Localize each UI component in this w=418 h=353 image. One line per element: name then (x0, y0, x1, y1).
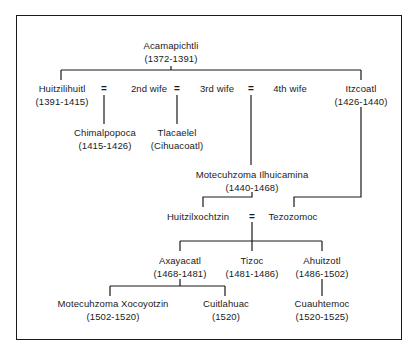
person-dates: (1481-1486) (226, 267, 279, 280)
person-name: Acamapichtli (143, 40, 198, 51)
person-cuauhtemoc: Cuauhtemoc (1520-1525) (295, 297, 350, 323)
person-dates: (1468-1481) (154, 267, 207, 280)
person-dates: (1520-1525) (295, 310, 350, 323)
marriage-symbol: = (248, 82, 254, 95)
person-name: 4th wife (273, 83, 307, 94)
marriage-symbol: = (101, 82, 107, 95)
person-tizoc: Tizoc (1481-1486) (226, 254, 279, 280)
person-dates: (1391-1415) (36, 95, 89, 108)
person-motecuhzoma-xocoyotzin: Motecuhzoma Xocoyotzin (1502-1520) (58, 297, 169, 323)
person-name: Huitzilxochtzin (167, 211, 229, 222)
person-dates: (1502-1520) (58, 310, 169, 323)
person-chimalpopoca: Chimalpopoca (1415-1426) (74, 126, 136, 152)
person-itzcoatl: Itzcoatl (1426-1440) (335, 82, 388, 108)
person-name: Motecuhzoma Xocoyotzin (58, 298, 169, 309)
person-dates: (1415-1426) (74, 139, 136, 152)
person-3rd-wife: 3rd wife (200, 82, 234, 95)
person-huitzilxochtzin: Huitzilxochtzin (167, 210, 229, 223)
person-name: Cuauhtemoc (295, 298, 350, 309)
person-name: Huitzilihuitl (39, 83, 86, 94)
person-dates: (1440-1468) (196, 181, 309, 194)
marriage-symbol: = (249, 210, 255, 223)
person-name: Ahuitzotl (303, 255, 340, 266)
person-axayacatl: Axayacatl (1468-1481) (154, 254, 207, 280)
person-huitzilihuitl: Huitzilihuitl (1391-1415) (36, 82, 89, 108)
person-name: Tlacaelel (158, 127, 197, 138)
person-name: Cuitlahuac (203, 298, 249, 309)
person-name: 3rd wife (200, 83, 234, 94)
person-2nd-wife: 2nd wife (131, 82, 167, 95)
person-dates: (1372-1391) (143, 52, 198, 65)
person-dates: (Cihuacoatl) (151, 139, 203, 152)
person-tlacaelel: Tlacaelel (Cihuacoatl) (151, 126, 203, 152)
marriage-symbol: = (174, 82, 180, 95)
person-dates: (1520) (203, 310, 249, 323)
person-dates: (1426-1440) (335, 95, 388, 108)
person-name: Chimalpopoca (74, 127, 136, 138)
person-name: Tizoc (241, 255, 264, 266)
person-name: Tezozomoc (269, 211, 318, 222)
person-name: Axayacatl (159, 255, 201, 266)
person-tezozomoc: Tezozomoc (269, 210, 318, 223)
person-name: Motecuhzoma Ilhuicamina (196, 169, 309, 180)
person-ahuitzotl: Ahuitzotl (1486-1502) (296, 254, 349, 280)
person-name: Itzcoatl (346, 83, 377, 94)
person-acamapichtli: Acamapichtli (1372-1391) (143, 39, 198, 65)
person-4th-wife: 4th wife (273, 82, 307, 95)
person-name: 2nd wife (131, 83, 167, 94)
person-cuitlahuac: Cuitlahuac (1520) (203, 297, 249, 323)
person-dates: (1486-1502) (296, 267, 349, 280)
person-motecuhzoma-ilhuicamina: Motecuhzoma Ilhuicamina (1440-1468) (196, 168, 309, 194)
